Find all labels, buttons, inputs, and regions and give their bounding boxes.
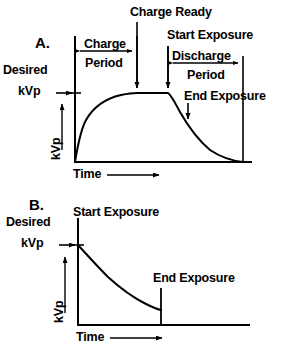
panel-a-discharge-period-line2: Period (187, 69, 225, 82)
panel-a-charge-period-line2: Period (85, 57, 123, 70)
waveform-diagram-svg (0, 0, 291, 356)
panel-a-id: A. (35, 36, 50, 49)
panel-b-x-axis-label: Time (76, 331, 104, 344)
panel-a-y-axis-label: kVp (50, 138, 63, 160)
panel-a-x-axis-label: Time (73, 168, 101, 181)
panel-a-charge-ready-label: Charge Ready (130, 6, 212, 19)
panel-b-end-exposure-label: End Exposure (153, 272, 235, 285)
panel-a-kvp-curve (75, 93, 243, 162)
panel-a-end-exposure-label: End Exposure (184, 90, 266, 103)
panel-b-id: B. (29, 198, 44, 211)
panel-a-desired-label: Desired (3, 64, 47, 77)
panel-b-kvp-curve (78, 245, 161, 310)
panel-a-discharge-period-line1: Discharge (172, 50, 231, 63)
panel-b-y-axis-label: kVp (53, 301, 66, 323)
panel-b-desired-kvp-label: kVp (21, 237, 43, 250)
panel-b-start-exposure-label: Start Exposure (73, 206, 159, 219)
panel-a-charge-period-line1: Charge (84, 38, 126, 51)
figure-canvas: A. Desired kVp kVp Time Charge Ready Sta… (0, 0, 291, 356)
panel-a-start-exposure-label: Start Exposure (167, 29, 253, 42)
panel-a-desired-kvp-label: kVp (18, 85, 40, 98)
panel-b-desired-label: Desired (6, 216, 50, 229)
